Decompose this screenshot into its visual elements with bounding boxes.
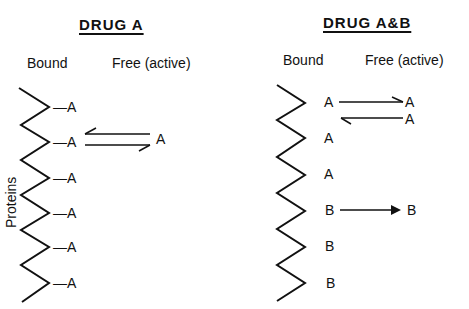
right-protein-zigzag [277,85,305,301]
right-bound-label: A [324,166,333,182]
proteins-axis-label: Proteins [3,177,19,228]
right-bound-label: A [324,94,333,110]
right-bound-label: A [324,130,333,146]
left-equilibrium-arrow [85,128,150,151]
right-free-header: Free (active) [365,52,444,68]
right-bound-header: Bound [283,52,323,68]
left-bound-label: —A [53,134,76,150]
right-free-label: A [405,94,414,110]
diagram-lines [0,0,469,309]
left-bound-label: —A [53,239,76,255]
right-bound-label: B [325,238,334,254]
left-protein-zigzag [19,88,49,302]
right-arrows [339,97,403,210]
right-panel-title: DRUG A&B [323,14,411,31]
left-free-header: Free (active) [112,55,191,71]
right-free-label: B [407,202,416,218]
left-panel-title: DRUG A [79,16,144,33]
left-free-label: A [156,131,165,147]
left-bound-header: Bound [27,55,67,71]
right-bound-label: B [326,275,335,291]
left-bound-label: —A [53,205,76,221]
right-free-label: A [405,111,414,127]
left-bound-label: —A [53,99,76,115]
left-bound-label: —A [53,170,76,186]
right-bound-label: B [325,202,334,218]
left-bound-label: —A [53,275,76,291]
b-arrowhead [391,205,401,215]
